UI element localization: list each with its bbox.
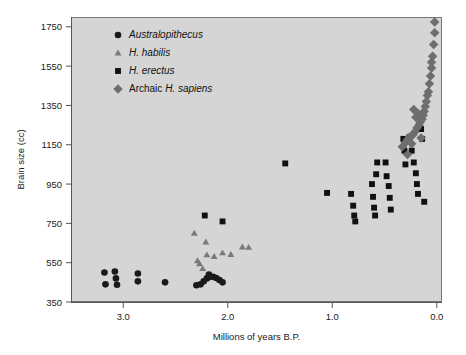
data-point (372, 213, 378, 219)
legend-item-label: Archaic H. sapiens (129, 83, 212, 94)
x-axis-title: Millions of years B.P. (213, 331, 300, 342)
data-point (421, 199, 427, 205)
data-point (384, 173, 390, 179)
data-point (114, 281, 121, 288)
legend-item-label: Australopithecus (128, 29, 203, 40)
legend-item-label: H. erectus (129, 65, 175, 76)
data-point (411, 160, 417, 166)
data-point (282, 160, 288, 166)
y-tick-label: 1350 (41, 100, 62, 111)
x-axis: 3.02.01.00.0 (71, 302, 443, 322)
data-point (324, 190, 330, 196)
data-point (220, 218, 226, 224)
data-point (352, 218, 358, 224)
data-point (373, 171, 379, 177)
data-point (348, 191, 354, 197)
brain-size-scatter-chart: 3505507509501150135015501750Brain size (… (0, 0, 466, 355)
data-point (383, 160, 389, 166)
data-point (369, 181, 375, 187)
data-point (371, 205, 377, 211)
legend-item-label: H. habilis (129, 47, 170, 58)
y-tick-label: 1550 (41, 61, 62, 72)
y-tick-label: 750 (46, 218, 62, 229)
data-point (102, 281, 109, 288)
data-point (374, 160, 380, 166)
x-tick-label: 0.0 (430, 311, 443, 322)
data-point (112, 268, 119, 275)
x-tick-label: 3.0 (117, 311, 130, 322)
data-point (370, 194, 376, 200)
data-point (415, 191, 421, 197)
circle-icon (115, 32, 122, 39)
y-tick-label: 350 (46, 297, 62, 308)
data-point (219, 279, 226, 286)
data-point (351, 213, 357, 219)
data-point (135, 270, 142, 277)
data-point (402, 161, 408, 167)
data-point (135, 278, 142, 285)
data-point (113, 275, 120, 282)
plot-area-background (71, 17, 442, 302)
x-tick-label: 1.0 (326, 311, 339, 322)
data-point (350, 203, 356, 209)
y-tick-label: 950 (46, 179, 62, 190)
data-point (413, 170, 419, 176)
data-point (101, 269, 108, 276)
y-axis: 3505507509501150135015501750 (41, 17, 72, 308)
y-axis-title: Brain size (cc) (15, 129, 26, 189)
square-icon (115, 68, 121, 74)
data-point (387, 195, 393, 201)
legend-item[interactable]: Archaic H. sapiens (113, 83, 212, 94)
data-point (162, 279, 169, 286)
data-point (202, 213, 208, 219)
x-tick-label: 2.0 (221, 311, 234, 322)
y-tick-label: 1150 (42, 139, 62, 150)
chart-canvas: 3505507509501150135015501750Brain size (… (0, 0, 466, 355)
data-point (414, 181, 420, 187)
data-point (386, 183, 392, 189)
data-point (206, 271, 213, 278)
y-tick-label: 1750 (41, 21, 62, 32)
y-tick-label: 550 (46, 257, 62, 268)
data-point (388, 207, 394, 213)
